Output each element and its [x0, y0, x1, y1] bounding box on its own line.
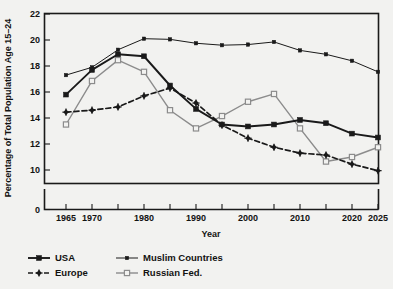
data-point-muslim-countries: [194, 42, 197, 45]
data-point-russian-fed: [349, 154, 354, 159]
data-point-usa: [272, 122, 277, 127]
data-point-usa: [324, 121, 329, 126]
data-point-usa: [376, 135, 381, 140]
data-point-muslim-countries: [64, 73, 67, 76]
legend-marker: [124, 270, 129, 275]
data-point-muslim-countries: [142, 37, 145, 40]
data-point-russian-fed: [141, 69, 146, 74]
x-axis-title: Year: [201, 229, 221, 239]
data-point-russian-fed: [297, 126, 302, 131]
data-point-russian-fed: [115, 58, 120, 63]
data-point-muslim-countries: [298, 49, 301, 52]
data-point-russian-fed: [219, 113, 224, 118]
legend-label-muslim-countries: Muslim Countries: [143, 252, 223, 263]
y-tick-label: 12: [30, 139, 40, 149]
chart-container: 010121416182022 196519701980199020002010…: [0, 0, 393, 289]
x-tick-label: 1970: [82, 213, 102, 223]
data-point-usa: [246, 124, 251, 129]
data-point-muslim-countries: [350, 59, 353, 62]
x-tick-label: 2010: [290, 213, 310, 223]
data-point-muslim-countries: [376, 70, 379, 73]
y-tick-label: 16: [30, 87, 40, 97]
data-point-usa: [220, 122, 225, 127]
legend-label-europe: Europe: [55, 267, 88, 278]
data-point-muslim-countries: [116, 48, 119, 51]
data-point-muslim-countries: [220, 44, 223, 47]
data-point-muslim-countries: [168, 38, 171, 41]
data-point-usa: [142, 54, 147, 59]
data-point-usa: [64, 92, 69, 97]
data-point-russian-fed: [375, 145, 380, 150]
data-point-russian-fed: [323, 159, 328, 164]
x-tick-label: 1980: [134, 213, 154, 223]
data-point-usa: [116, 52, 121, 57]
data-point-usa: [194, 107, 199, 112]
data-point-muslim-countries: [246, 43, 249, 46]
x-tick-label: 2020: [342, 213, 362, 223]
y-tick-label: 14: [30, 113, 40, 123]
y-axis-title: Percentage of Total Population Age 15–24: [3, 19, 13, 198]
x-tick-label: 1990: [186, 213, 206, 223]
legend-marker: [37, 256, 42, 261]
data-point-russian-fed: [245, 99, 250, 104]
x-tick-label: 1965: [56, 213, 76, 223]
y-tick-label: 22: [30, 9, 40, 19]
y-tick-label: 10: [30, 165, 40, 175]
x-tick-label: 2025: [368, 213, 388, 223]
line-chart: 010121416182022 196519701980199020002010…: [0, 0, 393, 289]
y-tick-label: 20: [30, 35, 40, 45]
data-point-russian-fed: [167, 108, 172, 113]
data-point-muslim-countries: [272, 40, 275, 43]
data-point-usa: [350, 131, 355, 136]
legend-label-russian-fed: Russian Fed.: [143, 267, 202, 278]
data-point-russian-fed: [63, 122, 68, 127]
legend-marker: [125, 256, 128, 259]
y-tick-label: 18: [30, 61, 40, 71]
data-point-muslim-countries: [324, 53, 327, 56]
x-tick-label: 2000: [238, 213, 258, 223]
data-point-russian-fed: [271, 91, 276, 96]
legend-label-usa: USA: [55, 252, 75, 263]
data-point-usa: [168, 83, 173, 88]
data-point-usa: [298, 118, 303, 123]
y-tick-label: 0: [35, 205, 40, 215]
data-point-russian-fed: [89, 78, 94, 83]
data-point-usa: [90, 68, 95, 73]
data-point-russian-fed: [193, 126, 198, 131]
